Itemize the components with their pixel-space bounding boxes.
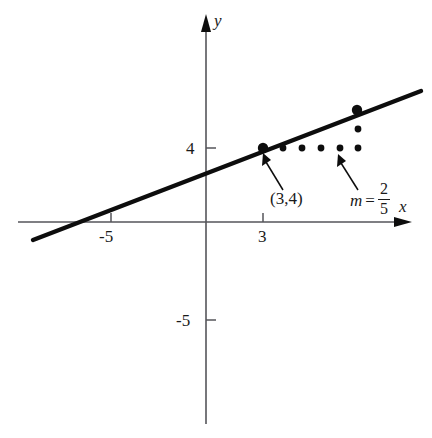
rise-dot [355, 126, 362, 133]
point-leader-line [266, 162, 283, 190]
slope-equals-sign: = [365, 192, 375, 209]
y-tick-label-4: 4 [186, 140, 195, 157]
slope-label: m = 2 5 [350, 182, 390, 219]
slope-variable: m [350, 192, 362, 209]
run-dot [318, 145, 325, 152]
run-dot [337, 145, 344, 152]
slope-numerator: 2 [378, 181, 390, 198]
y-tick-label-neg5: -5 [176, 312, 190, 329]
point-coordinate-label: (3,4) [270, 190, 303, 207]
x-axis-arrowhead [394, 217, 412, 227]
x-tick-label-3: 3 [258, 228, 267, 245]
y-axis-label: y [214, 12, 222, 29]
run-dot [299, 145, 306, 152]
run-dot [280, 145, 287, 152]
point-second-marker [352, 105, 362, 115]
graph-canvas [0, 0, 432, 438]
point-3-4-marker [258, 143, 268, 153]
slope-denominator: 5 [378, 201, 390, 218]
x-axis-label: x [399, 198, 407, 215]
run-dot [355, 145, 362, 152]
slope-fraction: 2 5 [378, 181, 390, 218]
y-axis-arrowhead [201, 14, 211, 32]
graph-figure: y x -5 3 4 -5 (3,4) m = 2 5 [0, 0, 432, 438]
x-tick-label-neg5: -5 [99, 228, 113, 245]
